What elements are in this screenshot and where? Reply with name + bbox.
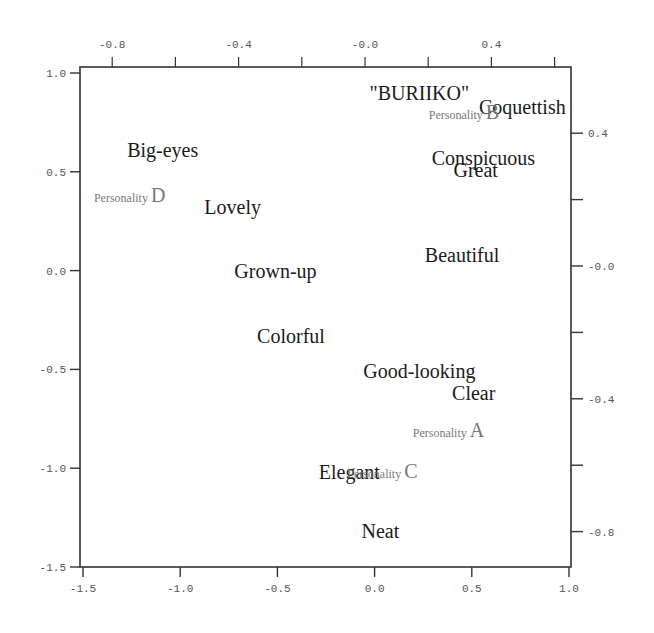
top-axis: -0.8-0.4-0.00.4	[99, 39, 555, 67]
y-tick-label: -1.0	[40, 463, 66, 475]
top-tick-label: -0.8	[99, 39, 125, 51]
personality-prefix: Personality	[429, 108, 486, 122]
x-tick-label: 0.5	[462, 583, 482, 595]
personality-label: Personality B	[429, 101, 499, 123]
adjective-label: Beautiful	[425, 244, 500, 266]
x-tick-label: 0.0	[365, 583, 385, 595]
bottom-axis: -1.5-1.0-0.50.00.51.0	[70, 567, 579, 595]
personality-letter: B	[486, 101, 499, 123]
x-tick-label: -0.5	[264, 583, 290, 595]
y-tick-label: 1.0	[46, 68, 66, 80]
right-tick-label: 0.4	[588, 128, 608, 140]
personality-letter: D	[151, 184, 165, 206]
y-tick-label: 0.0	[46, 266, 66, 278]
top-tick-label: -0.0	[352, 39, 378, 51]
right-axis: 0.4-0.0-0.4-0.8	[571, 128, 615, 538]
y-tick-label: 0.5	[46, 167, 66, 179]
adjective-label: Big-eyes	[127, 139, 198, 162]
personality-prefix: Personality	[94, 191, 151, 205]
top-tick-label: 0.4	[481, 39, 501, 51]
adjective-label: Clear	[452, 382, 496, 404]
personality-prefix: Personality	[347, 467, 404, 481]
left-axis: 1.00.50.0-0.5-1.0-1.5	[40, 68, 80, 574]
personality-letter: C	[404, 460, 417, 482]
right-tick-label: -0.4	[588, 394, 615, 406]
personality-prefix: Personality	[413, 426, 470, 440]
y-tick-label: -0.5	[40, 364, 66, 376]
x-tick-label: -1.0	[167, 583, 193, 595]
personality-label: Personality D	[94, 184, 165, 206]
right-tick-label: -0.0	[588, 261, 614, 273]
adjective-label: "BURIIKO"	[369, 82, 469, 104]
adjective-label: Lovely	[204, 196, 261, 219]
adjective-label: Colorful	[257, 325, 325, 347]
adjective-label: Good-looking	[363, 360, 475, 383]
adjective-label: Grown-up	[234, 260, 316, 283]
adjective-label: Great	[453, 159, 498, 181]
right-tick-label: -0.8	[588, 527, 614, 539]
x-tick-label: 1.0	[559, 583, 579, 595]
adjective-label: Neat	[362, 520, 400, 542]
top-tick-label: -0.4	[225, 39, 252, 51]
x-tick-label: -1.5	[70, 583, 96, 595]
personality-label: Personality A	[413, 419, 485, 441]
y-tick-label: -1.5	[40, 562, 66, 574]
personality-letter: A	[470, 419, 485, 441]
correspondence-plot: -1.5-1.0-0.50.00.51.0 1.00.50.0-0.5-1.0-…	[0, 0, 654, 633]
